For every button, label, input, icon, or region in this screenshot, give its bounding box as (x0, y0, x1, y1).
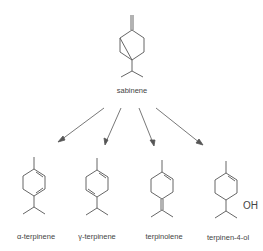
terpinen-4-ol-label: terpinen-4-ol (207, 233, 249, 242)
alpha-terpinene-structure (23, 157, 45, 214)
gamma-terpinene-label: γ-terpinene (78, 232, 116, 241)
alpha-terpinene-label: α-terpinene (17, 232, 55, 241)
sabinene-label: sabinene (117, 86, 147, 95)
terpinen-4-ol-structure (215, 161, 237, 218)
reaction-diagram (0, 0, 263, 251)
gamma-terpinene-structure (86, 158, 108, 215)
terpinolene-structure (151, 160, 173, 217)
reaction-arrows (58, 108, 203, 146)
hydroxyl-group-label: OH (243, 200, 258, 211)
terpinolene-label: terpinolene (145, 232, 182, 241)
sabinene-structure (120, 15, 144, 77)
